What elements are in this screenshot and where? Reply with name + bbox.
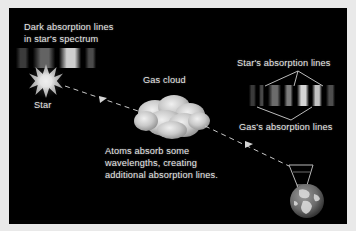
caption-line1: Atoms absorb some xyxy=(105,146,189,157)
star-line-leaders xyxy=(265,71,323,86)
gass-absorption-lines-label: Gas's absorption lines xyxy=(239,122,332,133)
star-glow xyxy=(29,64,63,98)
combined-spectrum-strip xyxy=(249,85,335,106)
dark-absorption-lines-label-line1: Dark absorption lines xyxy=(24,22,113,33)
spectrum-band xyxy=(284,85,293,106)
star-label: Star xyxy=(34,100,51,111)
gas-cloud-icon xyxy=(129,93,215,141)
spectrum-band xyxy=(85,48,96,68)
earth-telescope-group xyxy=(283,163,337,219)
caption-line3: additional absorption lines. xyxy=(105,170,218,181)
star-burst-icon xyxy=(29,64,63,98)
spectrum-band xyxy=(268,85,281,106)
earth-globe-icon xyxy=(283,163,337,219)
spectrum-band xyxy=(249,85,256,106)
caption-line2: wavelengths, creating xyxy=(105,158,197,169)
spectrum-band xyxy=(16,48,29,68)
dark-absorption-lines-label-line2: in star's spectrum xyxy=(24,34,98,45)
diagram-panel: Dark absorption lines in star's spectrum… xyxy=(9,8,347,224)
spectrum-band xyxy=(326,85,335,106)
figure-root: Dark absorption lines in star's spectrum… xyxy=(0,0,356,231)
stars-absorption-lines-label: Star's absorption lines xyxy=(237,58,331,69)
gas-line-leaders xyxy=(257,107,312,120)
gas-cloud-label: Gas cloud xyxy=(143,75,186,86)
spectrum-band xyxy=(312,85,322,106)
gas-cloud-shape xyxy=(129,93,215,141)
spectrum-band xyxy=(297,85,309,106)
